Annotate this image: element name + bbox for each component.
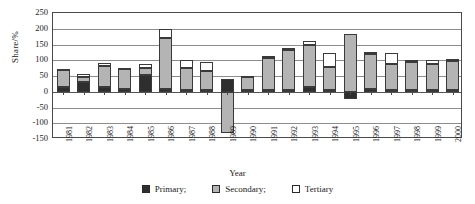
bar-segment-secondary[interactable] [282, 50, 295, 90]
bar-group[interactable] [180, 13, 193, 137]
bar-group[interactable] [364, 13, 377, 137]
x-axis-tick-label: 1984 [127, 126, 135, 142]
legend-item-secondary[interactable]: Secondary; [212, 184, 266, 194]
bar-segment-secondary[interactable] [77, 77, 90, 83]
y-axis-tick-label: -100 [20, 118, 48, 126]
bar-segment-tertiary[interactable] [262, 56, 275, 58]
bar-group[interactable] [405, 13, 418, 137]
bar-group[interactable] [57, 13, 70, 137]
bar-segment-secondary[interactable] [364, 54, 377, 89]
bar-segment-tertiary[interactable] [446, 59, 459, 61]
bar-segment-tertiary[interactable] [159, 29, 172, 38]
bar-group[interactable] [241, 13, 254, 137]
x-axis-tick-label: 1990 [250, 126, 258, 142]
x-axis-tick-mark [248, 92, 249, 95]
bar-group[interactable] [139, 13, 152, 137]
x-axis-tick-label: 1995 [353, 126, 361, 142]
x-axis-tick-mark [227, 92, 228, 95]
bar-group[interactable] [282, 13, 295, 137]
x-axis-tick-mark [371, 92, 372, 95]
bar-segment-secondary[interactable] [200, 71, 213, 90]
bar-segment-tertiary[interactable] [200, 62, 213, 71]
bar-segment-tertiary[interactable] [98, 63, 111, 66]
bar-segment-primary[interactable] [221, 79, 234, 92]
y-axis-tick-label: 0 [20, 87, 48, 95]
x-axis-tick-label: 1989 [230, 126, 238, 142]
legend-item-label: Secondary; [225, 184, 266, 194]
legend-item-label: Tertiary [305, 184, 333, 194]
legend-item-label: Primary; [155, 184, 187, 194]
chart-legend: Primary;Secondary;Tertiary [0, 181, 475, 197]
bar-segment-tertiary[interactable] [385, 53, 398, 64]
x-axis-title: Year [0, 168, 475, 178]
x-axis-tick-mark [268, 92, 269, 95]
bar-group[interactable] [446, 13, 459, 137]
bar-group[interactable] [385, 13, 398, 137]
bar-segment-secondary[interactable] [344, 34, 357, 92]
x-axis-tick-mark [145, 92, 146, 95]
bar-group[interactable] [303, 13, 316, 137]
bar-segment-tertiary[interactable] [118, 68, 131, 70]
bar-group[interactable] [200, 13, 213, 137]
bar-segment-primary[interactable] [139, 75, 152, 91]
x-axis-tick-mark [166, 92, 167, 95]
bar-group[interactable] [323, 13, 336, 137]
bar-segment-secondary[interactable] [262, 58, 275, 91]
bar-group[interactable] [77, 13, 90, 137]
bar-segment-secondary[interactable] [303, 45, 316, 87]
bar-segment-secondary[interactable] [405, 62, 418, 90]
bar-segment-tertiary[interactable] [139, 64, 152, 68]
bar-segment-tertiary[interactable] [241, 76, 254, 78]
bar-segment-secondary[interactable] [385, 64, 398, 90]
x-axis-tick-label: 2000 [455, 126, 463, 142]
x-axis-tick-label: 1986 [168, 126, 176, 142]
bar-segment-secondary[interactable] [241, 77, 254, 90]
y-axis-tick-label: 150 [20, 40, 48, 48]
x-axis-tick-label: 1983 [107, 126, 115, 142]
bar-group[interactable] [262, 13, 275, 137]
y-axis-tick-label: 200 [20, 24, 48, 32]
bar-segment-secondary[interactable] [180, 68, 193, 90]
bar-segment-secondary[interactable] [446, 61, 459, 91]
x-axis-tick-label: 1999 [435, 126, 443, 142]
bar-segment-tertiary[interactable] [364, 52, 377, 54]
bar-series-container [53, 13, 461, 137]
bar-segment-secondary[interactable] [323, 67, 336, 91]
legend-item-tertiary[interactable]: Tertiary [292, 184, 333, 194]
x-axis-tick-label: 1993 [312, 126, 320, 142]
x-axis-tick-label: 1985 [148, 126, 156, 142]
bar-group[interactable] [159, 13, 172, 137]
bar-segment-secondary[interactable] [159, 38, 172, 88]
x-axis-tick-mark [84, 92, 85, 95]
bar-segment-secondary[interactable] [118, 69, 131, 89]
y-axis-tick-label: -150 [20, 134, 48, 142]
y-axis-tick-label: 50 [20, 71, 48, 79]
bar-segment-primary[interactable] [77, 82, 90, 91]
x-axis-tick-mark [330, 92, 331, 95]
bar-segment-tertiary[interactable] [77, 74, 90, 77]
bar-segment-tertiary[interactable] [323, 53, 336, 67]
bar-segment-tertiary[interactable] [57, 69, 70, 71]
x-axis-tick-label: 1994 [332, 126, 340, 142]
x-axis-tick-mark [412, 92, 413, 95]
bar-group[interactable] [426, 13, 439, 137]
x-axis-tick-label: 1987 [189, 126, 197, 142]
bar-segment-tertiary[interactable] [303, 41, 316, 45]
bar-segment-secondary[interactable] [426, 64, 439, 90]
bar-segment-tertiary[interactable] [180, 60, 193, 68]
bar-group[interactable] [344, 13, 357, 137]
bar-segment-secondary[interactable] [57, 70, 70, 87]
legend-item-primary[interactable]: Primary; [142, 184, 187, 194]
x-axis-tick-label: 1998 [414, 126, 422, 142]
bar-segment-tertiary[interactable] [405, 60, 418, 62]
bar-segment-tertiary[interactable] [282, 48, 295, 51]
x-axis-tick-label: 1992 [291, 126, 299, 142]
bar-group[interactable] [118, 13, 131, 137]
bar-group[interactable] [221, 13, 234, 137]
bar-segment-tertiary[interactable] [426, 60, 439, 64]
bar-segment-secondary[interactable] [98, 66, 111, 87]
bar-segment-secondary[interactable] [139, 68, 152, 76]
primary-swatch-icon [142, 185, 150, 193]
bar-group[interactable] [98, 13, 111, 137]
x-axis-tick-mark [289, 92, 290, 95]
